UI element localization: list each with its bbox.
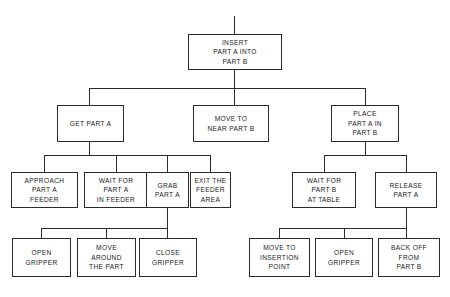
node-line: AROUND — [91, 253, 122, 262]
edge-place-part-a-to-bus — [365, 142, 366, 156]
node-get-part-a[interactable]: GET PART A — [57, 105, 124, 142]
edge-drop-release-part-a — [406, 155, 407, 172]
edge-drop-wait-for-part-b-at-table — [324, 155, 325, 172]
edge-drop-close-gripper — [167, 228, 168, 238]
edge-grab-part-a-to-bus — [167, 208, 168, 229]
node-line: INSERT — [222, 38, 248, 47]
node-line: PART A — [32, 185, 57, 194]
node-line: PLACE — [353, 109, 376, 118]
edge-get-part-a-to-bus — [89, 142, 90, 156]
node-line: WAIT FOR — [99, 176, 134, 185]
task-hierarchy-diagram: INSERT PART A INTO PART B GET PART A MOV… — [0, 0, 450, 297]
node-line: FEEDER — [30, 195, 59, 204]
node-line: APPROACH — [25, 176, 65, 185]
node-line: PART B — [396, 262, 421, 271]
edge-drop-open-gripper-left — [41, 228, 42, 238]
edge-tier4-left-bus — [41, 228, 168, 229]
node-line: RELEASE — [390, 181, 423, 190]
node-move-to-insertion-point[interactable]: MOVE TO INSERTION POINT — [249, 238, 310, 277]
edge-root-to-tier2-bus — [234, 70, 235, 89]
edge-drop-back-off-from-part-b — [406, 228, 407, 238]
node-line: MOVE TO — [215, 114, 248, 123]
edge-tier3-left-bus-ext — [167, 155, 211, 156]
node-wait-for-part-b-at-table[interactable]: WAIT FOR PART B AT TABLE — [292, 172, 356, 208]
edge-drop-open-gripper-right — [344, 228, 345, 238]
node-line: MOVE — [96, 243, 117, 252]
node-wait-for-part-a-in-feeder[interactable]: WAIT FOR PART A IN FEEDER — [84, 172, 148, 208]
node-line: WAIT FOR — [307, 176, 342, 185]
node-line: OPEN — [31, 248, 51, 257]
node-line: PART A — [155, 190, 180, 199]
edge-tier2-drop-move-to-near-part-b — [234, 88, 235, 105]
node-line: GRIPPER — [25, 258, 57, 267]
edge-tier2-bus — [89, 88, 366, 89]
node-grab-part-a[interactable]: GRAB PART A — [146, 172, 189, 208]
node-line: PART B — [311, 185, 336, 194]
node-line: NEAR PART B — [207, 124, 254, 133]
node-line: AREA — [201, 195, 220, 204]
node-line: PART A — [394, 190, 419, 199]
node-line: BACK OFF — [391, 243, 427, 252]
node-open-gripper-left[interactable]: OPEN GRIPPER — [12, 238, 71, 277]
node-close-gripper[interactable]: CLOSE GRIPPER — [139, 238, 197, 277]
node-line: EXIT THE — [194, 176, 226, 185]
node-line: IN FEEDER — [97, 195, 135, 204]
edge-tier4-right-bus — [279, 228, 407, 229]
node-line: PART A IN — [348, 119, 382, 128]
node-line: FROM — [399, 253, 420, 262]
node-line: PART A INTO — [213, 47, 257, 56]
edge-tier2-drop-get-part-a — [89, 88, 90, 105]
node-approach-part-a-feeder[interactable]: APPROACH PART A FEEDER — [11, 172, 78, 208]
edge-drop-move-to-insertion-point — [279, 228, 280, 238]
node-line: PART B — [222, 57, 247, 66]
node-back-off-from-part-b[interactable]: BACK OFF FROM PART B — [378, 238, 440, 277]
node-line: MOVE TO — [263, 243, 296, 252]
edge-release-part-a-to-bus — [406, 208, 407, 229]
edge-drop-grab-part-a — [167, 155, 168, 172]
node-move-around-the-part[interactable]: MOVE AROUND THE PART — [77, 238, 136, 277]
node-line: GRIPPER — [152, 258, 184, 267]
node-line: GET PART A — [70, 119, 112, 128]
node-line: GRAB — [157, 181, 177, 190]
edge-tier2-drop-place-part-a — [365, 88, 366, 105]
node-line: THE PART — [89, 262, 124, 271]
node-line: OPEN — [334, 248, 354, 257]
edge-drop-move-around-the-part — [106, 228, 107, 238]
node-line: POINT — [269, 262, 291, 271]
node-line: PART B — [352, 128, 377, 137]
edge-root-stub — [234, 16, 235, 34]
edge-tier3-right-bus — [324, 155, 407, 156]
node-insert-part-a-into-part-b[interactable]: INSERT PART A INTO PART B — [188, 34, 282, 70]
node-line: FEEDER — [196, 185, 225, 194]
edge-drop-approach-part-a-feeder — [44, 155, 45, 172]
edge-drop-wait-for-part-a-in-feeder — [116, 155, 117, 172]
edge-tier3-left-bus — [44, 155, 172, 156]
edge-drop-exit-the-feeder-area — [210, 155, 211, 172]
node-release-part-a[interactable]: RELEASE PART A — [375, 172, 437, 208]
node-open-gripper-right[interactable]: OPEN GRIPPER — [315, 238, 373, 277]
node-place-part-a-in-part-b[interactable]: PLACE PART A IN PART B — [331, 105, 399, 142]
node-move-to-near-part-b[interactable]: MOVE TO NEAR PART B — [193, 105, 269, 142]
node-line: AT TABLE — [308, 195, 341, 204]
node-line: INSERTION — [260, 253, 299, 262]
node-line: PART A — [104, 185, 129, 194]
node-line: CLOSE — [156, 248, 180, 257]
node-exit-the-feeder-area[interactable]: EXIT THE FEEDER AREA — [190, 172, 231, 208]
node-line: GRIPPER — [328, 258, 360, 267]
